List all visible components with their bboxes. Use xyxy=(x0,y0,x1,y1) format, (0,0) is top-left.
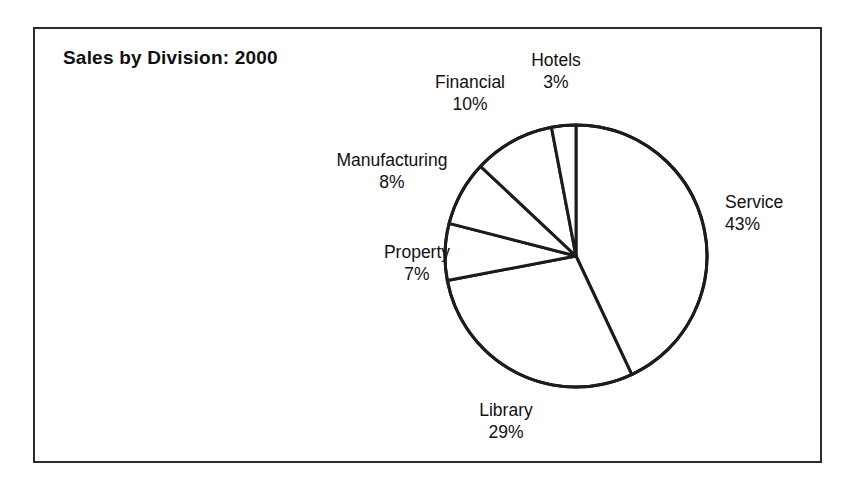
scanned-page: Sales by Division: 2000 Service 43% Libr… xyxy=(0,0,859,488)
pie-label-hotels-name: Hotels xyxy=(531,50,581,70)
figure-frame: Sales by Division: 2000 Service 43% Libr… xyxy=(33,27,822,463)
pie-label-service-name: Service xyxy=(725,192,783,212)
pie-label-manufacturing-value: 8% xyxy=(307,171,477,193)
pie-slice-group xyxy=(445,125,707,387)
pie-label-hotels-value: 3% xyxy=(501,71,611,93)
pie-label-library-value: 29% xyxy=(441,421,571,443)
pie-label-library-name: Library xyxy=(479,400,533,420)
pie-label-library: Library 29% xyxy=(441,399,571,443)
pie-label-property-value: 7% xyxy=(352,263,482,285)
pie-label-financial-value: 10% xyxy=(405,93,535,115)
pie-label-service-value: 43% xyxy=(725,213,835,235)
pie-label-property-name: Property xyxy=(384,242,450,262)
pie-label-manufacturing-name: Manufacturing xyxy=(337,150,448,170)
pie-label-service: Service 43% xyxy=(725,191,835,235)
pie-label-property: Property 7% xyxy=(352,241,482,285)
pie-label-hotels: Hotels 3% xyxy=(501,49,611,93)
pie-label-financial-name: Financial xyxy=(435,72,505,92)
pie-label-manufacturing: Manufacturing 8% xyxy=(307,149,477,193)
